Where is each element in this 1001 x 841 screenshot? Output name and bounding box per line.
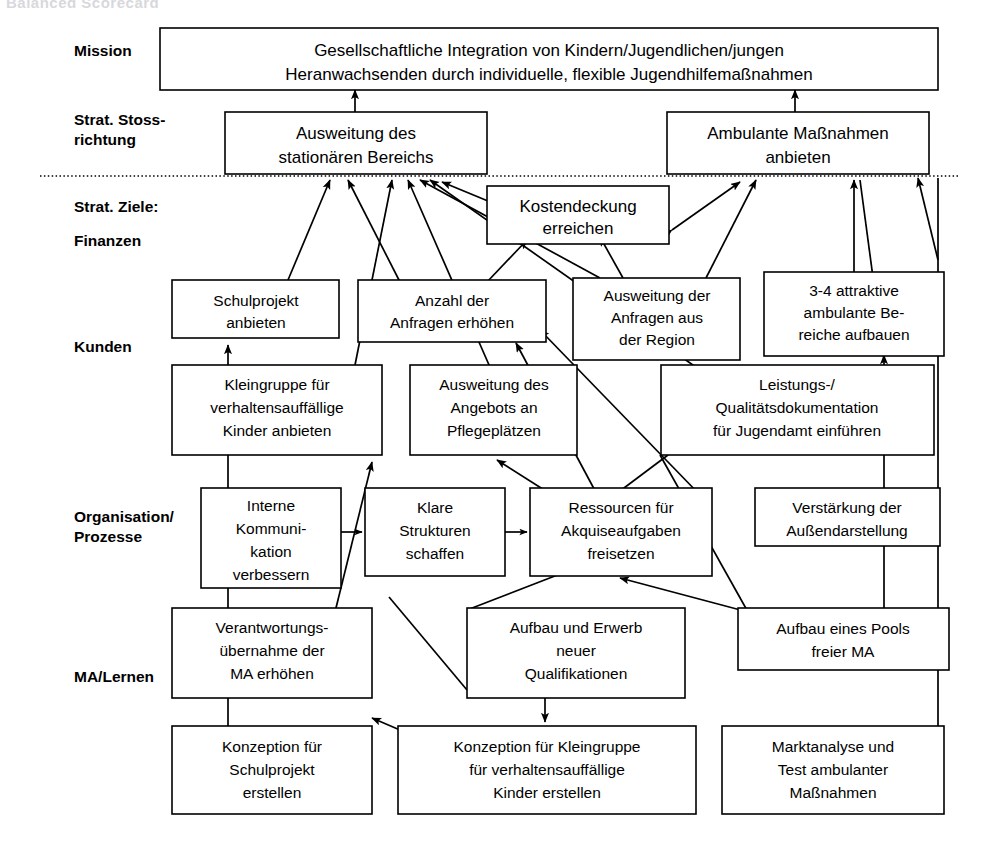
box-kleingruppe-line-1: verhaltensauffällige	[210, 399, 343, 416]
box-pool-line-1: freier MA	[812, 643, 876, 660]
box-konzept-schul-line-0: Konzeption für	[222, 738, 322, 755]
box-kostendeckung[interactable]: Kostendeckung erreichen	[487, 186, 669, 244]
box-ressourcen-akquise[interactable]: Ressourcen für Akquiseaufgaben freisetze…	[530, 488, 712, 576]
box-pool-freier-ma[interactable]: Aufbau eines Pools freier MA	[738, 608, 949, 670]
box-mission-line-0: Gesellschaftliche Integration von Kinder…	[314, 41, 784, 60]
box-mission-line-1: Heranwachsenden durch individuelle, flex…	[285, 65, 812, 84]
box-marktanalyse[interactable]: Marktanalyse und Test ambulanter Maßnahm…	[722, 726, 944, 814]
row-label-finanzen-line-0: Finanzen	[74, 232, 141, 249]
box-konzept-schulprojekt[interactable]: Konzeption für Schulprojekt erstellen	[172, 726, 372, 814]
row-label-malernen: MA/Lernen	[74, 668, 154, 685]
box-pflege-line-0: Ausweitung des	[439, 376, 549, 393]
box-aussen-line-0: Verstärkung der	[792, 499, 901, 516]
box-qualdok-line-1: Qualitätsdokumentation	[716, 399, 879, 416]
box-ausweitung-stationaer[interactable]: Ausweitung des stationären Bereichs	[225, 112, 487, 174]
box-klare-line-2: schaffen	[406, 545, 464, 562]
box-mission[interactable]: Gesellschaftliche Integration von Kinder…	[160, 28, 938, 90]
box-ressourcen-line-2: freisetzen	[587, 545, 654, 562]
link-schulprojekt-to-ausweitung	[288, 180, 330, 280]
box-konzept-schul-line-2: erstellen	[243, 784, 302, 801]
box-region-line-1: Anfragen aus	[611, 309, 703, 326]
row-label-mission-line-0: Mission	[74, 42, 132, 59]
box-interne-kommunikation[interactable]: Interne Kommuni- kation verbessern	[201, 488, 341, 588]
row-label-organisation: Organisation/ Prozesse	[74, 508, 175, 545]
box-ambulante-massnahmen-line-1: anbieten	[765, 148, 830, 167]
row-label-kunden: Kunden	[74, 338, 132, 355]
box-verantwortung-line-0: Verantwortungs-	[216, 619, 329, 636]
link-kostendeckung-ambulante-double	[672, 182, 740, 230]
box-pflege-line-2: Pflegeplätzen	[447, 422, 541, 439]
box-pflegeplaetze[interactable]: Ausweitung des Angebots an Pflegeplätzen	[410, 365, 577, 455]
box-aussendarstellung[interactable]: Verstärkung der Außendarstellung	[755, 488, 940, 546]
box-kleingruppe-line-2: Kinder anbieten	[223, 422, 332, 439]
row-label-stossrichtung-line-1: richtung	[74, 131, 136, 148]
box-qualifikationen[interactable]: Aufbau und Erwerb neuer Qualifikationen	[467, 608, 685, 698]
box-region-line-0: Ausweitung der	[604, 287, 711, 304]
box-kostendeckung-line-1: erreichen	[543, 219, 614, 238]
box-qualifikationen-line-2: Qualifikationen	[525, 665, 628, 682]
box-schulprojekt-anbieten[interactable]: Schulprojekt anbieten	[172, 280, 339, 338]
box-konzept-kleingruppe[interactable]: Konzeption für Kleingruppe für verhalten…	[398, 726, 696, 814]
box-verantwortung-line-2: MA erhöhen	[230, 665, 314, 682]
box-ambulante-massnahmen-line-0: Ambulante Maßnahmen	[707, 124, 888, 143]
box-marktanalyse-line-2: Maßnahmen	[789, 784, 876, 801]
box-attraktive-line-2: reiche aufbauen	[798, 326, 909, 343]
box-ressourcen-line-0: Ressourcen für	[568, 499, 673, 516]
box-klare-strukturen[interactable]: Klare Strukturen schaffen	[365, 488, 505, 576]
box-anzahl-anfragen[interactable]: Anzahl der Anfragen erhöhen	[358, 280, 546, 342]
box-ambulante-massnahmen[interactable]: Ambulante Maßnahmen anbieten	[667, 112, 929, 174]
row-label-organisation-line-1: Prozesse	[74, 528, 142, 545]
link-qualifikationen-edge-a	[389, 597, 467, 690]
box-anzahl-anfragen-line-1: Anfragen erhöhen	[390, 314, 514, 331]
link-qualifikationen-edge-b	[467, 574, 560, 610]
box-attraktive-line-0: 3-4 attraktive	[809, 282, 899, 299]
row-label-malernen-line-0: MA/Lernen	[74, 668, 154, 685]
box-kostendeckung-line-0: Kostendeckung	[519, 197, 636, 216]
box-anzahl-anfragen-line-0: Anzahl der	[415, 292, 489, 309]
box-marktanalyse-line-1: Test ambulanter	[778, 761, 888, 778]
box-attraktive-line-1: ambulante Be-	[804, 304, 905, 321]
box-aussen-line-1: Außendarstellung	[786, 522, 908, 539]
box-interne-line-0: Interne	[247, 497, 295, 514]
box-verantwortung-line-1: übernahme der	[219, 642, 324, 659]
box-pool-line-0: Aufbau eines Pools	[776, 620, 910, 637]
box-marktanalyse-line-0: Marktanalyse und	[772, 738, 894, 755]
strategy-map-canvas: Mission Strat. Stoss- richtung Strat. Zi…	[0, 0, 1001, 841]
box-interne-line-1: Kommuni-	[236, 520, 307, 537]
box-attraktive-bereiche[interactable]: 3-4 attraktive ambulante Be- reiche aufb…	[764, 272, 944, 356]
row-label-mission: Mission	[74, 42, 132, 59]
box-konzept-kg-line-0: Konzeption für Kleingruppe	[454, 738, 641, 755]
box-pflege-line-1: Angebots an	[450, 399, 537, 416]
row-label-organisation-line-0: Organisation/	[74, 508, 175, 525]
row-label-ziele-line-0: Strat. Ziele:	[74, 198, 158, 215]
box-kleingruppe-line-0: Kleingruppe für	[224, 376, 329, 393]
link-anzahl-to-kostendeckung	[487, 240, 527, 282]
box-anzahl-anfragen-rect[interactable]	[358, 280, 546, 342]
box-klare-line-0: Klare	[417, 499, 453, 516]
box-klare-line-1: Strukturen	[399, 522, 471, 539]
box-ausweitung-region[interactable]: Ausweitung der Anfragen aus der Region	[573, 278, 740, 360]
box-qualifikationen-line-0: Aufbau und Erwerb	[510, 619, 643, 636]
box-konzept-kg-line-1: für verhaltensauffällige	[469, 761, 625, 778]
box-verantwortung[interactable]: Verantwortungs- übernahme der MA erhöhen	[172, 608, 372, 698]
box-ressourcen-line-1: Akquiseaufgaben	[561, 522, 681, 539]
box-qualdok-line-2: für Jugendamt einführen	[713, 422, 881, 439]
box-kleingruppe[interactable]: Kleingruppe für verhaltensauffällige Kin…	[172, 365, 382, 455]
link-region-to-ambulante	[706, 180, 756, 278]
box-interne-line-2: kation	[250, 543, 291, 560]
box-konzept-kg-line-2: Kinder erstellen	[493, 784, 601, 801]
box-qualifikationen-line-1: neuer	[556, 642, 596, 659]
box-schulprojekt-line-1: anbieten	[226, 314, 285, 331]
row-label-kunden-line-0: Kunden	[74, 338, 132, 355]
box-region-line-2: der Region	[619, 331, 695, 348]
strategy-map-page: Balanced Scorecard Mission Strat. Stoss-…	[0, 0, 1001, 841]
box-pool-freier-ma-rect[interactable]	[738, 608, 949, 670]
row-label-stossrichtung: Strat. Stoss- richtung	[74, 111, 165, 148]
box-konzept-schul-line-1: Schulprojekt	[229, 761, 315, 778]
link-konzeptkg-to-konzeptschul	[372, 718, 400, 730]
box-qualitaetsdokumentation[interactable]: Leistungs-/ Qualitätsdokumentation für J…	[661, 365, 934, 455]
link-pool-to-ressourcen	[620, 578, 748, 612]
row-label-finanzen: Finanzen	[74, 232, 141, 249]
box-interne-line-3: verbessern	[233, 566, 310, 583]
box-ausweitung-stationaer-line-0: Ausweitung des	[296, 124, 416, 143]
